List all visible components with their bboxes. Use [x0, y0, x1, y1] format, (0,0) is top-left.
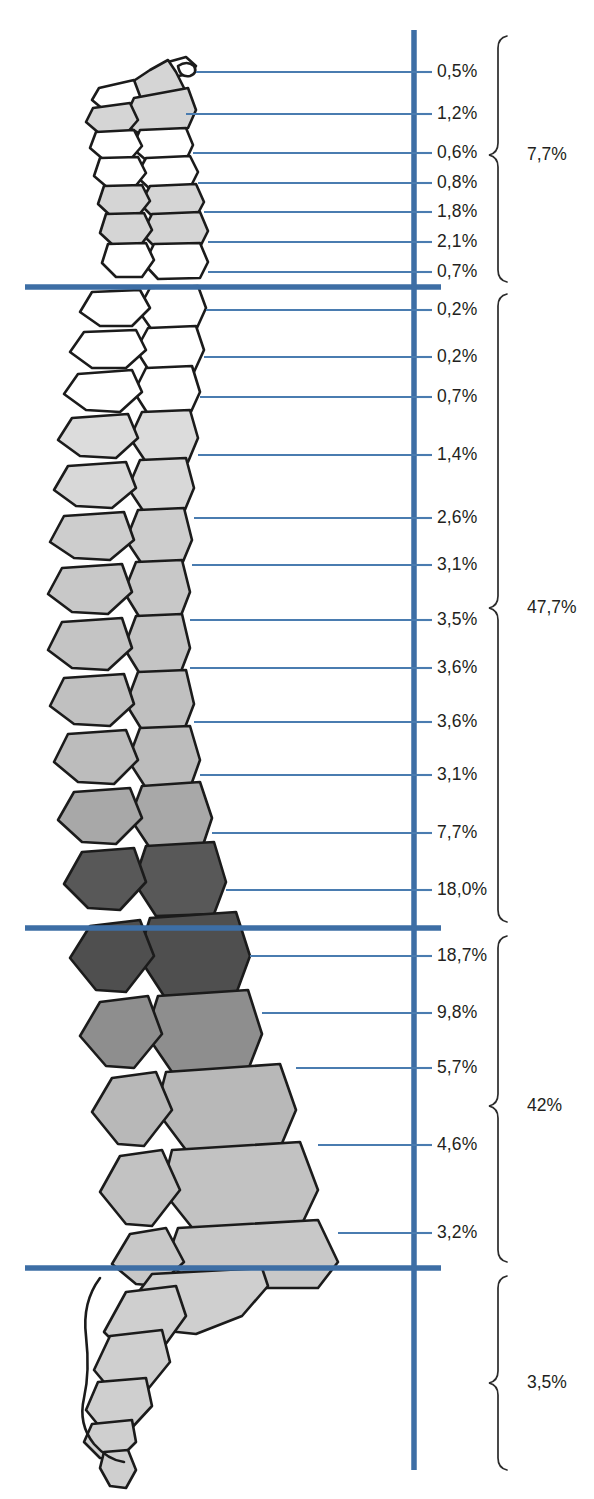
- bracket-thoracic: [489, 294, 507, 922]
- value-label-c4: 0,8%: [437, 174, 477, 192]
- value-label-t8: 3,6%: [437, 659, 477, 677]
- value-label-c3: 0,6%: [437, 144, 477, 162]
- group-total-lumbar: 42%: [527, 1097, 562, 1115]
- group-total-cervical: 7,7%: [527, 146, 567, 164]
- value-label-t4: 1,4%: [437, 446, 477, 464]
- value-label-t11: 7,7%: [437, 824, 477, 842]
- axis-and-leader-lines: [0, 0, 594, 1499]
- bracket-cervical: [489, 36, 507, 282]
- value-label-t7: 3,5%: [437, 611, 477, 629]
- value-label-l5: 3,2%: [437, 1224, 477, 1242]
- group-total-thoracic: 47,7%: [527, 599, 577, 617]
- value-label-c5: 1,8%: [437, 203, 477, 221]
- value-label-c7: 0,7%: [437, 263, 477, 281]
- value-label-t1: 0,2%: [437, 301, 477, 319]
- value-label-t6: 3,1%: [437, 556, 477, 574]
- value-label-t5: 2,6%: [437, 509, 477, 527]
- value-label-t10: 3,1%: [437, 766, 477, 784]
- leader-lines: [186, 72, 432, 1233]
- value-label-c2: 1,2%: [437, 105, 477, 123]
- value-label-c6: 2,1%: [437, 233, 477, 251]
- value-label-l4: 4,6%: [437, 1136, 477, 1154]
- spine-percentage-diagram: 0,5% 1,2% 0,6% 0,8% 1,8% 2,1% 0,7% 0,2% …: [0, 0, 594, 1499]
- region-separators: [25, 287, 441, 1268]
- value-label-l3: 5,7%: [437, 1059, 477, 1077]
- value-label-t2: 0,2%: [437, 348, 477, 366]
- group-total-sacral: 3,5%: [527, 1374, 567, 1392]
- value-label-l1: 18,7%: [437, 947, 487, 965]
- value-label-l2: 9,8%: [437, 1004, 477, 1022]
- value-label-c1: 0,5%: [437, 63, 477, 81]
- value-label-t3: 0,7%: [437, 388, 477, 406]
- bracket-sacral: [489, 1276, 507, 1470]
- bracket-lumbar: [489, 936, 507, 1262]
- group-brackets: [489, 36, 507, 1470]
- value-label-t12: 18,0%: [437, 881, 487, 899]
- value-label-t9: 3,6%: [437, 713, 477, 731]
